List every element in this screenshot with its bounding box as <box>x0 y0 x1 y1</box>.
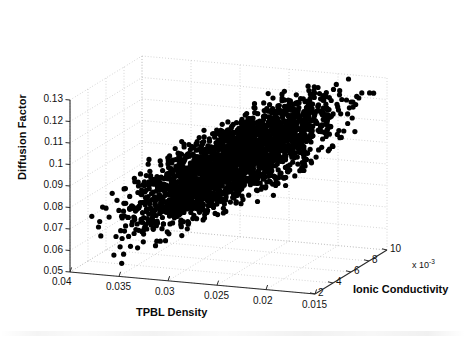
z-axis-tick-label: 4 <box>336 276 342 287</box>
figure-3d-scatter-plot: Diffusion Factor TPBL Density Ionic Cond… <box>0 0 465 338</box>
y-axis-tick-label: 0.05 <box>44 265 63 276</box>
z-axis-multiplier: x 10-3 <box>412 258 435 270</box>
z-axis-tick-label: 10 <box>390 243 401 254</box>
x-axis-tick-label: 0.02 <box>253 295 272 306</box>
x-axis-tick-label: 0.03 <box>155 286 174 297</box>
x-axis-tick-label: 0.025 <box>204 290 229 301</box>
y-axis-tick-label: 0.1 <box>49 158 63 169</box>
y-axis-tick-label: 0.13 <box>44 93 63 104</box>
y-axis-tick-label: 0.09 <box>44 179 63 190</box>
z-axis-tick-label: 2 <box>318 287 324 298</box>
y-axis-tick-label: 0.12 <box>44 115 63 126</box>
y-axis-tick-label: 0.11 <box>44 136 63 147</box>
z-axis-title: Ionic Conductivity <box>353 283 448 295</box>
x-axis-tick-label: 0.015 <box>302 299 327 310</box>
x-axis-tick-label: 0.04 <box>52 276 71 287</box>
x-axis-title: TPBL Density <box>136 306 207 318</box>
y-axis-tick-label: 0.06 <box>44 244 63 255</box>
z-axis-tick-label: 8 <box>372 254 378 265</box>
y-axis-tick-label: 0.08 <box>44 201 63 212</box>
z-axis-tick-label: 6 <box>354 265 360 276</box>
z-axis-multiplier-exponent: -3 <box>429 258 435 265</box>
x-axis-tick-label: 0.035 <box>106 281 131 292</box>
z-axis-multiplier-base: x 10 <box>412 260 429 270</box>
y-axis-tick-label: 0.07 <box>44 222 63 233</box>
